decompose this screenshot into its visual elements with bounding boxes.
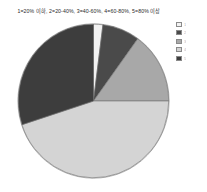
legend-item[interactable]: 4 [176,47,205,53]
legend-item[interactable]: 3 [176,38,205,44]
legend-swatch-icon [176,47,182,52]
pie-svg [17,23,170,179]
legend-swatch-icon [176,39,182,44]
chart-title: 1=20% 이하, 2=20-40%, 3=40-60%, 4=60-80%, … [0,8,178,15]
legend-swatch-icon [176,22,182,27]
pie-chart-area [17,23,170,179]
legend-item-label: 1 [184,22,186,27]
pie-chart-screenshot: 1=20% 이하, 2=20-40%, 3=40-60%, 4=60-80%, … [0,0,207,192]
legend-item[interactable]: 2 [176,30,205,36]
pie-slice-group [18,24,168,178]
legend-item-label: 3 [184,39,186,44]
legend-item[interactable]: 1 [176,21,205,27]
legend-item-label: 2 [184,30,186,35]
legend-item[interactable]: 5 [176,55,205,61]
legend-swatch-icon [176,56,182,61]
legend-item-label: 5 [184,56,186,61]
chart-legend: 1 2 3 4 5 [176,21,205,61]
legend-swatch-icon [176,30,182,35]
legend-item-label: 4 [184,47,186,52]
